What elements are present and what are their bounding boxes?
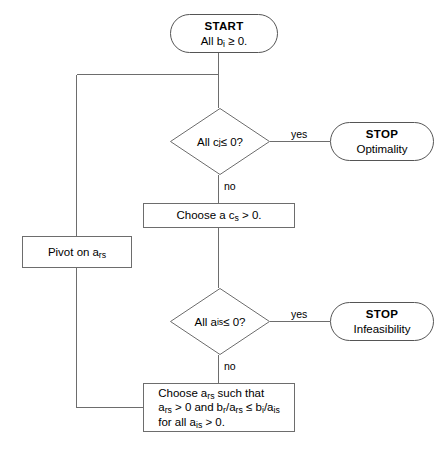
choose-ars-line1-sub: rs — [207, 391, 214, 401]
choose-ars-line2-b: and — [194, 401, 213, 413]
edge-label-optimality-yes: yes — [291, 128, 307, 140]
node-decision-infeasibility: All ais ≤ 0? — [170, 288, 270, 355]
start-subtitle: All bi ≥ 0. — [201, 34, 248, 48]
start-subtitle-prefix: All b — [201, 35, 223, 47]
choose-ars-line1-a: Choose — [158, 387, 198, 399]
stop-infeasibility-subtitle: Infeasibility — [354, 322, 411, 336]
pivot-text: Pivot onars — [48, 245, 106, 260]
choose-ars-line2-s5: is — [273, 405, 279, 415]
start-title: START — [205, 20, 244, 33]
node-pivot: Pivot onars — [22, 236, 132, 268]
node-choose-ars: Choosearssuch that ars > 0andbr/ars ≤ bi… — [143, 383, 295, 432]
choose-ars-line2-s3: rs — [236, 405, 243, 415]
choose-ars-line3-b: > 0. — [202, 416, 225, 428]
choose-cs-prefix: Choose a — [176, 209, 225, 221]
decision-optimality-shape — [170, 108, 270, 175]
choose-ars-line1-b: such that — [218, 387, 265, 399]
node-stop-optimality: STOP Optimality — [330, 122, 434, 161]
pivot-sub: rs — [99, 250, 106, 260]
pivot-prefix: Pivot on — [48, 246, 90, 258]
choose-ars-text: Choosearssuch that ars > 0andbr/ars ≤ bi… — [152, 386, 286, 430]
node-start: START All bi ≥ 0. — [170, 14, 278, 53]
node-decision-optimality: All cj ≤ 0? — [170, 108, 270, 175]
choose-cs-text: Choose acs > 0. — [176, 208, 261, 223]
node-stop-infeasibility: STOP Infeasibility — [330, 302, 434, 341]
edge-label-infeasibility-yes: yes — [291, 308, 307, 320]
stop-optimality-title: STOP — [366, 128, 398, 141]
decision-infeasibility-shape — [170, 288, 270, 355]
choose-ars-line-3: for all ais > 0. — [158, 415, 280, 430]
choose-ars-line3-a: for all a — [158, 416, 196, 428]
node-choose-cs: Choose acs > 0. — [143, 203, 295, 228]
choose-cs-suffix: > 0. — [239, 209, 262, 221]
start-subtitle-suffix: ≥ 0. — [225, 35, 247, 47]
edge-label-optimality-no: no — [224, 180, 236, 192]
stop-infeasibility-title: STOP — [366, 308, 398, 321]
stop-optimality-subtitle: Optimality — [356, 142, 407, 156]
choose-ars-line2-d: ≤ b — [243, 401, 262, 413]
choose-ars-line-2: ars > 0andbr/ars ≤ bi/ais — [158, 400, 280, 415]
edge-label-infeasibility-no: no — [224, 360, 236, 372]
choose-ars-line2-a: > 0 — [172, 401, 192, 413]
choose-ars-line2-s1: rs — [165, 405, 172, 415]
choose-ars-line2-c: /a — [226, 401, 236, 413]
choose-ars-line-1: Choosearssuch that — [158, 386, 280, 401]
flowchart-canvas: START All bi ≥ 0. All cj ≤ 0? yes no STO… — [0, 0, 447, 457]
